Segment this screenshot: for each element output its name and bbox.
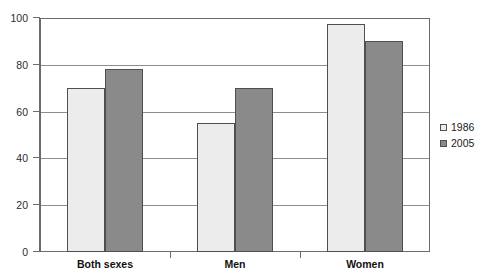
- legend-label-2005: 2005: [451, 137, 474, 149]
- y-tick-label-40: 40: [16, 152, 28, 164]
- y-axis: 020406080100: [0, 0, 40, 273]
- y-tick-label-0: 0: [22, 246, 28, 258]
- bar-both-sexes-1986: [67, 88, 105, 252]
- legend-swatch-icon-1986: [440, 124, 447, 131]
- legend: 19862005: [440, 120, 482, 152]
- bar-chart: 020406080100 Both sexesMenWomen 19862005: [0, 0, 482, 273]
- x-axis-labels: Both sexesMenWomen: [40, 258, 430, 273]
- legend-label-1986: 1986: [451, 121, 474, 133]
- bar-both-sexes-2005: [105, 69, 143, 252]
- bar-men-2005: [235, 88, 273, 252]
- legend-item-2005[interactable]: 2005: [440, 136, 482, 150]
- x-axis-label-men: Men: [225, 258, 246, 270]
- legend-swatch-icon-2005: [440, 140, 447, 147]
- x-axis-label-women: Women: [346, 258, 384, 270]
- bar-women-1986: [327, 24, 365, 252]
- y-tick-label-80: 80: [16, 59, 28, 71]
- bar-women-2005: [365, 41, 403, 252]
- bars-layer: [40, 18, 430, 252]
- y-tick-label-100: 100: [10, 12, 28, 24]
- y-tick-label-20: 20: [16, 199, 28, 211]
- x-axis-label-both-sexes: Both sexes: [77, 258, 133, 270]
- y-tick-label-60: 60: [16, 106, 28, 118]
- bar-men-1986: [197, 123, 235, 252]
- legend-item-1986[interactable]: 1986: [440, 120, 482, 134]
